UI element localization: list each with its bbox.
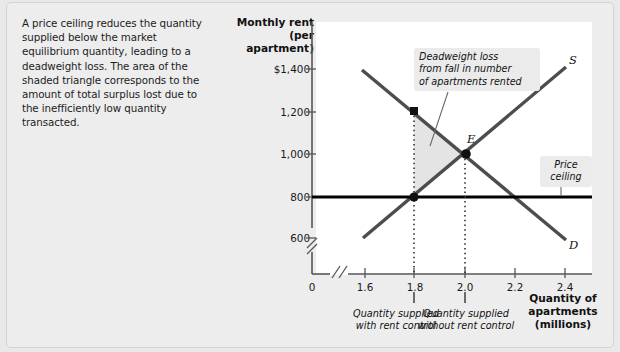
- y-axis-break-mark-1: [307, 238, 317, 248]
- price-ceiling-callout: Price ceiling: [540, 156, 592, 187]
- figure-panel: A price ceiling reduces the quantity sup…: [0, 0, 620, 352]
- quantity-without-line2: without rent control: [406, 320, 526, 332]
- point-marker-demand-at-1-8: [410, 107, 418, 115]
- deadweight-loss-callout-line1: Deadweight loss: [419, 51, 535, 63]
- quantity-without-line1: Quantity supplied: [406, 308, 526, 320]
- x-axis-break-mark-1: [332, 266, 340, 278]
- quantity-supplied-without-rent-control-label: Quantity supplied without rent control: [406, 308, 526, 332]
- x-axis-break-mark-2: [339, 266, 347, 278]
- price-ceiling-callout-line2: ceiling: [545, 171, 587, 183]
- deadweight-loss-callout-line3: of apartments rented: [419, 76, 535, 88]
- deadweight-loss-callout: Deadweight loss from fall in number of a…: [414, 48, 540, 91]
- deadweight-loss-triangle: [414, 111, 466, 197]
- point-marker-supply-at-ceiling: [409, 192, 418, 201]
- point-marker-equilibrium: [461, 149, 471, 159]
- price-ceiling-callout-line1: Price: [545, 159, 587, 171]
- deadweight-loss-callout-line2: from fall in number: [419, 63, 535, 75]
